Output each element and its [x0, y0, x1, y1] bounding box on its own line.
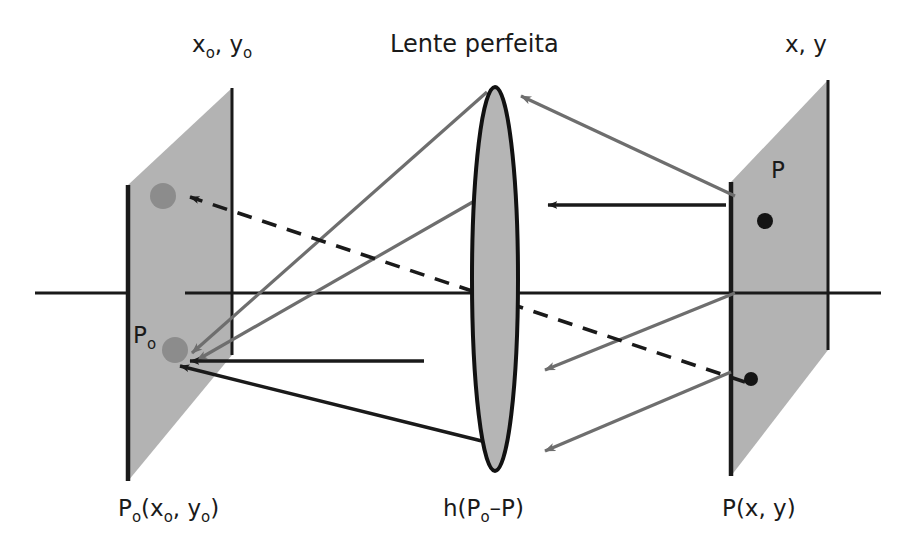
label-plane-right-P: P — [771, 157, 785, 183]
perfect-lens — [472, 87, 518, 471]
black-dot-lower — [744, 372, 758, 386]
black-dot-upper — [757, 213, 773, 229]
gray-dot-upper — [150, 183, 176, 209]
optical-diagram-figure: xo, yo Lente perfeita x, y Po P Po(xo, y… — [0, 0, 921, 552]
label-lens-title: Lente perfeita — [390, 30, 559, 58]
gray-dot-lower — [162, 337, 188, 363]
diagram-canvas: xo, yo Lente perfeita x, y Po P Po(xo, y… — [0, 0, 921, 552]
lens-body — [472, 87, 518, 471]
label-bottom-right-P-coords: P(x, y) — [722, 495, 796, 521]
label-top-right-coords: x, y — [785, 31, 827, 57]
